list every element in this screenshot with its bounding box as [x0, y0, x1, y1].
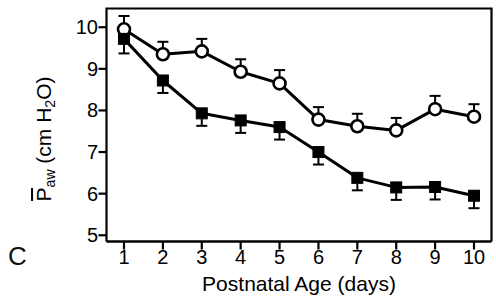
data-point-filled-square: [274, 122, 285, 133]
data-point-filled-square: [352, 172, 363, 183]
plot-area: [0, 0, 496, 308]
data-point-open-circle: [235, 66, 247, 78]
series-line: [124, 29, 474, 130]
data-point-filled-square: [313, 147, 324, 158]
data-point-filled-square: [157, 75, 168, 86]
data-point-open-circle: [274, 77, 286, 89]
axes-frame: [107, 9, 492, 242]
data-point-open-circle: [468, 111, 480, 123]
data-point-open-circle: [390, 124, 402, 136]
series-filled-square: [119, 33, 480, 208]
data-point-open-circle: [351, 120, 363, 132]
data-point-open-circle: [429, 103, 441, 115]
data-point-filled-square: [430, 181, 441, 192]
y-axis-ticks: [99, 27, 107, 235]
series-layer: [118, 16, 480, 208]
data-point-filled-square: [119, 33, 130, 44]
data-point-open-circle: [157, 48, 169, 60]
chart-figure: C Paw (cm H2O) Postnatal Age (days) 1098…: [0, 0, 496, 308]
data-point-filled-square: [196, 108, 207, 119]
data-point-open-circle: [196, 45, 208, 57]
axes-border: [107, 9, 492, 242]
data-point-filled-square: [235, 115, 246, 126]
data-point-filled-square: [391, 182, 402, 193]
data-point-open-circle: [312, 114, 324, 126]
data-point-filled-square: [469, 190, 480, 201]
series-open-circle: [118, 16, 480, 136]
